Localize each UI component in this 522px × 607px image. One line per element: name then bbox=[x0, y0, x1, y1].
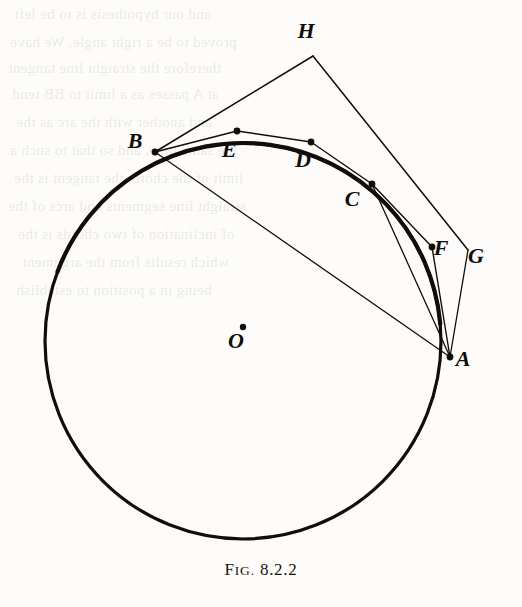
tangent-G-A bbox=[450, 250, 468, 357]
point-dot-b bbox=[152, 149, 159, 156]
point-label-d: D bbox=[294, 147, 311, 172]
chord-D-C bbox=[311, 142, 372, 184]
point-dot-a bbox=[447, 354, 454, 361]
point-label-o: O bbox=[228, 328, 244, 353]
point-label-g: G bbox=[468, 243, 484, 268]
point-label-h: H bbox=[296, 18, 315, 43]
point-labels-group: ABCDEFGHO bbox=[127, 18, 484, 371]
point-dot-e bbox=[234, 128, 241, 135]
point-label-b: B bbox=[127, 128, 143, 153]
thick-arc-B-to-A bbox=[58, 143, 441, 324]
figure-caption: FIG. 8.2.2 bbox=[0, 560, 522, 580]
point-dot-c bbox=[369, 181, 376, 188]
point-label-e: E bbox=[221, 137, 237, 162]
chord-B-A bbox=[155, 152, 450, 357]
tangent-H-G bbox=[313, 56, 468, 250]
geometry-diagram: ABCDEFGHO bbox=[0, 0, 522, 607]
caption-prefix-first: F bbox=[225, 560, 235, 579]
segments-group bbox=[155, 56, 468, 357]
arc-group bbox=[58, 143, 441, 324]
point-label-a: A bbox=[454, 346, 471, 371]
point-label-f: F bbox=[433, 235, 449, 260]
point-label-c: C bbox=[345, 186, 360, 211]
chord-C-A bbox=[372, 184, 450, 357]
caption-prefix-rest: IG. bbox=[235, 563, 255, 578]
point-dot-d bbox=[308, 139, 315, 146]
chord-E-D bbox=[237, 131, 311, 142]
caption-number: 8.2.2 bbox=[260, 560, 298, 579]
figure-container: and our hypothesis is to be leftproved t… bbox=[0, 0, 522, 607]
